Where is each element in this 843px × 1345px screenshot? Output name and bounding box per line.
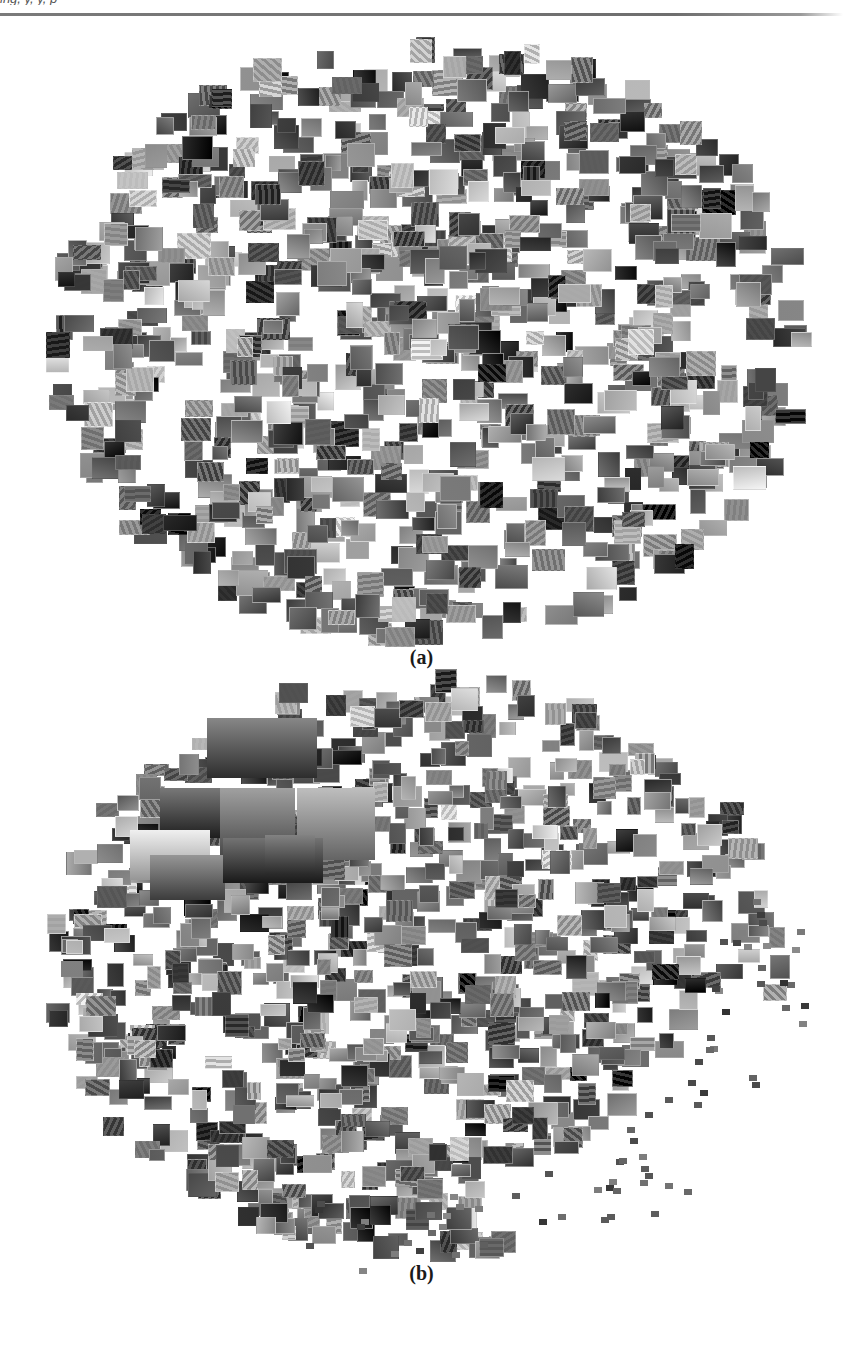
thumbnail-image bbox=[147, 966, 161, 990]
thumbnail-image bbox=[326, 695, 346, 716]
thumbnail-image bbox=[758, 965, 766, 971]
thumbnail-image bbox=[753, 899, 761, 905]
thumbnail-image bbox=[688, 1080, 696, 1086]
thumbnail-image bbox=[548, 786, 566, 807]
thumbnail-image bbox=[620, 877, 636, 891]
thumbnail-image bbox=[533, 960, 561, 975]
thumbnail-image bbox=[684, 1189, 692, 1195]
thumbnail-image bbox=[597, 883, 621, 903]
thumbnail-image bbox=[117, 795, 140, 811]
thumbnail-image bbox=[287, 906, 314, 920]
thumbnail-image bbox=[86, 996, 115, 1016]
thumbnail-image bbox=[449, 855, 463, 874]
thumbnail-image bbox=[484, 954, 502, 974]
thumbnail-image bbox=[286, 880, 312, 900]
thumbnail-image bbox=[260, 1004, 286, 1016]
thumbnail-image bbox=[518, 894, 536, 908]
thumbnail-image bbox=[391, 1251, 399, 1257]
large-thumbnail-image bbox=[150, 855, 225, 900]
thumbnail-image bbox=[676, 956, 701, 975]
thumbnail-image bbox=[448, 827, 465, 841]
thumbnail-image bbox=[613, 1188, 621, 1194]
thumbnail-image bbox=[707, 1035, 715, 1041]
thumbnail-image bbox=[486, 675, 506, 693]
thumbnail-image bbox=[508, 829, 525, 849]
thumbnail-image bbox=[455, 741, 469, 756]
thumbnail-image bbox=[287, 917, 306, 938]
thumbnail-image bbox=[303, 1155, 333, 1173]
thumbnail-image bbox=[47, 914, 66, 934]
thumbnail-image bbox=[256, 1217, 276, 1234]
thumbnail-image bbox=[738, 949, 760, 963]
thumbnail-image bbox=[425, 863, 445, 880]
thumbnail-image bbox=[357, 1224, 365, 1230]
thumbnail-image bbox=[107, 963, 124, 987]
thumbnail-image bbox=[427, 1212, 435, 1218]
thumbnail-image bbox=[430, 1002, 451, 1019]
thumbnail-image bbox=[172, 995, 192, 1011]
thumbnail-image bbox=[555, 758, 578, 772]
thumbnail-image bbox=[748, 925, 770, 937]
thumbnail-image bbox=[191, 918, 210, 939]
thumbnail-image bbox=[393, 982, 411, 996]
thumbnail-image bbox=[581, 910, 606, 929]
thumbnail-image bbox=[300, 1033, 326, 1047]
thumbnail-image bbox=[119, 1059, 138, 1081]
thumbnail-image bbox=[557, 915, 582, 936]
thumbnail-image bbox=[612, 1070, 633, 1087]
thumbnail-image bbox=[341, 1131, 365, 1152]
thumbnail-image bbox=[231, 895, 250, 915]
thumbnail-image bbox=[637, 876, 657, 889]
thumbnail-image bbox=[465, 985, 491, 1004]
thumbnail-image bbox=[384, 944, 413, 967]
thumbnail-image bbox=[597, 801, 613, 815]
thumbnail-image bbox=[456, 1204, 464, 1210]
thumbnail-image bbox=[389, 1009, 416, 1031]
thumbnail-image bbox=[702, 900, 723, 922]
thumbnail-image bbox=[459, 1002, 486, 1018]
thumbnail-image bbox=[486, 771, 508, 790]
thumbnail-image bbox=[560, 1034, 577, 1052]
thumbnail-image bbox=[286, 950, 310, 967]
thumbnail-image bbox=[362, 1166, 387, 1188]
thumbnail-image bbox=[282, 1184, 307, 1198]
thumbnail-image bbox=[686, 930, 707, 943]
thumbnail-image bbox=[602, 737, 621, 753]
thumbnail-image bbox=[133, 954, 153, 966]
thumbnail-image bbox=[594, 1187, 602, 1193]
thumbnail-image bbox=[639, 1154, 647, 1160]
thumbnail-image bbox=[267, 1140, 294, 1158]
thumbnail-image bbox=[770, 955, 790, 978]
thumbnail-image bbox=[461, 938, 488, 952]
thumbnail-image bbox=[373, 763, 402, 776]
thumbnail-image bbox=[720, 939, 728, 945]
thumbnail-image bbox=[586, 1022, 616, 1039]
thumbnail-image bbox=[417, 1179, 443, 1199]
thumbnail-image bbox=[119, 1080, 144, 1099]
thumbnail-image bbox=[566, 955, 587, 979]
thumbnail-image bbox=[450, 1194, 458, 1200]
thumbnail-image bbox=[641, 1166, 649, 1172]
thumbnail-image bbox=[134, 1040, 156, 1058]
thumbnail-image bbox=[149, 1149, 166, 1161]
thumbnail-image bbox=[467, 734, 492, 757]
thumbnail-image bbox=[514, 924, 532, 945]
thumbnail-image bbox=[578, 1083, 596, 1105]
thumbnail-image bbox=[645, 1173, 653, 1179]
thumbnail-image bbox=[416, 1018, 431, 1038]
thumbnail-image bbox=[190, 1108, 208, 1123]
thumbnail-image bbox=[139, 777, 161, 801]
thumbnail-image bbox=[279, 683, 307, 703]
thumbnail-image bbox=[428, 1230, 436, 1236]
thumbnail-image bbox=[681, 823, 696, 836]
thumbnail-image bbox=[700, 1090, 708, 1096]
thumbnail-image bbox=[787, 982, 795, 988]
thumbnail-image bbox=[317, 959, 332, 975]
thumbnail-image bbox=[752, 1082, 760, 1088]
thumbnail-image bbox=[320, 1093, 342, 1107]
thumbnail-image bbox=[782, 1005, 790, 1011]
thumbnail-image bbox=[446, 1042, 468, 1064]
thumbnail-image bbox=[443, 1213, 451, 1219]
thumbnail-image bbox=[428, 919, 456, 933]
thumbnail-image bbox=[652, 964, 679, 980]
